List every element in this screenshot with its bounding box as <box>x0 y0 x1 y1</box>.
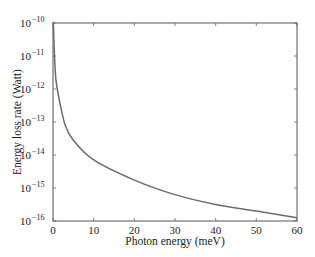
data-series <box>53 22 297 217</box>
x-axis-title: Photon energy (meV) <box>125 235 225 248</box>
plot-frame <box>53 23 297 221</box>
y-tick-exponent: −16 <box>32 213 45 222</box>
y-tick-label: 10 <box>20 17 32 29</box>
x-tick-label: 50 <box>251 224 263 236</box>
y-tick-exponent: −12 <box>32 81 45 90</box>
y-axis-ticks: 10−1010−1110−1210−1310−1410−1510−16 <box>20 15 297 227</box>
y-tick-label: 10 <box>20 182 32 194</box>
y-tick-exponent: −15 <box>32 180 45 189</box>
y-tick-exponent: −10 <box>32 15 45 24</box>
x-tick-label: 10 <box>88 224 100 236</box>
y-tick-exponent: −14 <box>32 147 45 156</box>
y-tick-exponent: −11 <box>32 48 44 57</box>
series-line <box>53 22 297 217</box>
y-tick-exponent: −13 <box>32 114 45 123</box>
x-axis-ticks: 0102030405060 <box>50 23 303 236</box>
y-axis-title: Energy loss rate (Watt) <box>11 69 24 175</box>
x-tick-label: 60 <box>292 224 304 236</box>
x-tick-label: 0 <box>50 224 56 236</box>
chart: 0102030405060 10−1010−1110−1210−1310−141… <box>0 0 315 257</box>
y-tick-label: 10 <box>20 50 32 62</box>
y-tick-label: 10 <box>20 215 32 227</box>
